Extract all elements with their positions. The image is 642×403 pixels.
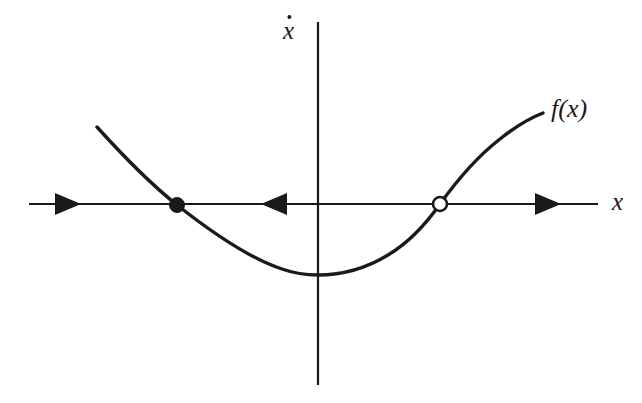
phase-line-figure: x x f(x) [0, 0, 642, 403]
flow-arrow-middle-icon [261, 193, 287, 215]
unstable-fixed-point-marker [433, 197, 447, 211]
y-axis-label: x [283, 18, 294, 43]
flow-arrow-left-icon [55, 193, 81, 215]
y-axis-label-text: x [283, 17, 294, 44]
x-axis-label: x [612, 189, 623, 214]
curve-label: f(x) [551, 96, 587, 122]
curve-label-text: f(x) [551, 94, 587, 123]
plot-canvas [0, 0, 642, 403]
dot-accent-icon [287, 15, 291, 19]
stable-fixed-point-marker [170, 198, 185, 213]
x-axis-label-text: x [612, 188, 623, 215]
function-curve [97, 113, 543, 275]
flow-arrow-right-icon [535, 193, 561, 215]
